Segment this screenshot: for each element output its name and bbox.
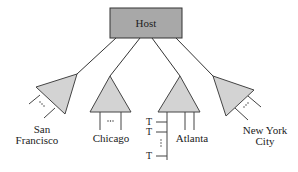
host-label: Host [110,8,182,38]
ellipsis-icon [107,120,113,121]
ellipsis-icon [39,101,44,106]
terminal-label-2: T [146,127,152,137]
terminal-ticks [156,122,167,156]
vertical-ellipsis-icon [160,139,161,146]
concentrator-san-francisco [29,74,77,118]
host-links [77,38,213,76]
terminal-label-3: T [146,151,152,161]
concentrator-chicago [90,76,131,130]
label-new-york-city-line2: City [250,135,280,147]
link-san-francisco [77,38,116,74]
label-san-francisco-line2: Francisco [12,134,62,146]
link-atlanta [152,38,180,76]
network-diagram: Host San Francisco Chicago Atlanta New Y… [0,0,298,172]
link-chicago [110,38,140,76]
link-new-york-city [176,38,213,76]
concentrator-new-york-city [213,76,261,120]
concentrator-atlanta [156,76,200,160]
ellipsis-icon [243,102,248,107]
label-chicago: Chicago [90,132,132,144]
label-atlanta: Atlanta [175,132,209,144]
